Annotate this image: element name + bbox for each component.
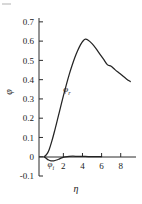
data-curves [44, 39, 130, 161]
y-tick-label: 0.6 [23, 36, 35, 46]
y-tick-label: 0.5 [23, 56, 35, 66]
y-tick-label: 0.2 [23, 113, 34, 123]
x-tick-label: 6 [99, 161, 104, 171]
curve-label-phi-r: φr [63, 84, 71, 95]
x-tick-label: 8 [118, 161, 123, 171]
y-tick-label: -0.1 [20, 171, 34, 181]
y-axis-label: φ [3, 89, 14, 95]
phi-vs-eta-line-chart: -0.100.10.20.30.40.50.60.7 2468 φrφi φ η [0, 0, 142, 204]
y-tick-label: 0.3 [23, 94, 35, 104]
axes [39, 18, 136, 176]
y-axis-ticks: -0.100.10.20.30.40.50.60.7 [20, 17, 43, 181]
x-axis-label: η [74, 183, 79, 194]
chart-figure: -0.100.10.20.30.40.50.60.7 2468 φrφi φ η [0, 0, 142, 204]
curve-labels: φrφi [48, 84, 72, 171]
x-tick-label: 4 [80, 161, 85, 171]
scan-artifact [2, 3, 11, 5]
curve-phi-r [44, 39, 130, 157]
y-tick-label: 0 [30, 152, 35, 162]
x-tick-label: 2 [61, 161, 66, 171]
y-tick-label: 0.4 [23, 75, 35, 85]
y-tick-label: 0.1 [23, 133, 34, 143]
y-tick-label: 0.7 [23, 17, 35, 27]
